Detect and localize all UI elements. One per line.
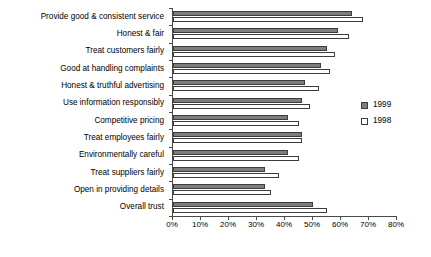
bar-group <box>173 129 397 146</box>
bar-1998 <box>173 173 279 178</box>
category-label: Use information responsibly <box>0 95 168 112</box>
bar-1998 <box>173 121 299 126</box>
chart-legend: 1999 1998 <box>361 101 391 125</box>
category-label: Treat employees fairly <box>0 129 168 146</box>
bar-1999 <box>173 167 265 172</box>
category-axis-labels: Provide good & consistent service Honest… <box>0 8 168 216</box>
bar-group <box>173 43 397 60</box>
bar-1998 <box>173 104 310 109</box>
bar-1999 <box>173 115 288 120</box>
category-label: Competitive pricing <box>0 112 168 129</box>
bar-1998 <box>173 69 330 74</box>
value-tick-label: 70% <box>360 221 376 229</box>
bar-1999 <box>173 46 327 51</box>
legend-item-1998: 1998 <box>361 117 391 125</box>
bar-group <box>173 77 397 94</box>
bar-1998 <box>173 208 327 213</box>
value-axis-labels: 0%10%20%30%40%50%60%70%80% <box>172 221 396 235</box>
bar-1998 <box>173 52 335 57</box>
bar-group <box>173 60 397 77</box>
category-label: Provide good & consistent service <box>0 8 168 25</box>
category-label: Treat suppliers fairly <box>0 164 168 181</box>
bar-1998 <box>173 156 299 161</box>
category-label: Honest & fair <box>0 25 168 42</box>
value-tick-label: 40% <box>276 221 292 229</box>
bar-1999 <box>173 28 338 33</box>
bar-1998 <box>173 86 319 91</box>
legend-label: 1999 <box>373 101 391 109</box>
value-tick-label: 50% <box>304 221 320 229</box>
bar-1999 <box>173 63 321 68</box>
bar-1999 <box>173 98 302 103</box>
bar-1999 <box>173 80 305 85</box>
value-tick-label: 0% <box>166 221 178 229</box>
bar-1998 <box>173 17 363 22</box>
bar-group <box>173 147 397 164</box>
category-label: Overall trust <box>0 199 168 216</box>
category-label: Good at handling complaints <box>0 60 168 77</box>
bar-1999 <box>173 11 352 16</box>
category-label: Open in providing details <box>0 181 168 198</box>
legend-label: 1998 <box>373 117 391 125</box>
legend-item-1999: 1999 <box>361 101 391 109</box>
bar-1998 <box>173 138 302 143</box>
filled-gray-swatch-icon <box>361 102 368 109</box>
category-label: Treat customers fairly <box>0 43 168 60</box>
bar-1999 <box>173 184 265 189</box>
bar-1999 <box>173 132 302 137</box>
value-tick-label: 60% <box>332 221 348 229</box>
value-tick-label: 20% <box>220 221 236 229</box>
open-white-swatch-icon <box>361 118 368 125</box>
category-label: Honest & truthful advertising <box>0 77 168 94</box>
horizontal-bar-chart: Provide good & consistent service Honest… <box>0 0 431 257</box>
bar-group <box>173 181 397 198</box>
bar-group <box>173 8 397 25</box>
bar-1999 <box>173 202 313 207</box>
value-tick-label: 30% <box>248 221 264 229</box>
bar-group <box>173 199 397 216</box>
value-tick-label: 10% <box>192 221 208 229</box>
value-tick-label: 80% <box>388 221 404 229</box>
bar-1998 <box>173 34 349 39</box>
category-label: Environmentally careful <box>0 147 168 164</box>
bar-group <box>173 164 397 181</box>
bar-1999 <box>173 150 288 155</box>
bar-group <box>173 25 397 42</box>
bar-1998 <box>173 190 271 195</box>
